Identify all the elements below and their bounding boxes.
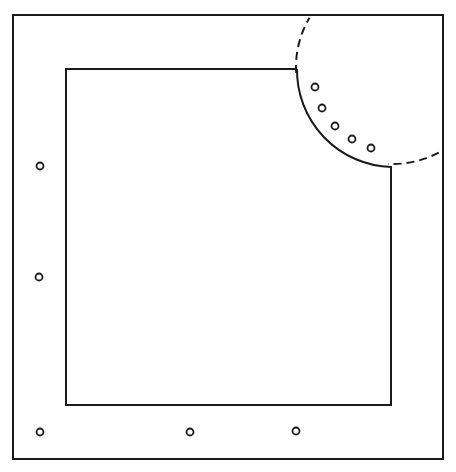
outer-square <box>13 15 443 459</box>
border-circle-marker <box>36 274 43 281</box>
arc-circle-marker <box>349 136 356 143</box>
arc-circle-marker <box>368 145 375 152</box>
border-circle-marker <box>187 429 194 436</box>
diagram-canvas <box>0 0 456 472</box>
dashed-arc-upper <box>296 18 309 73</box>
inner-square-with-arc-cutout <box>66 69 391 405</box>
border-circle-marker <box>293 428 300 435</box>
dashed-arc-lower <box>388 153 439 164</box>
arc-circle-marker <box>332 123 339 130</box>
border-circle-marker <box>37 163 44 170</box>
arc-circle-marker <box>312 84 319 91</box>
arc-circle-marker <box>319 105 326 112</box>
border-circle-marker <box>37 429 44 436</box>
